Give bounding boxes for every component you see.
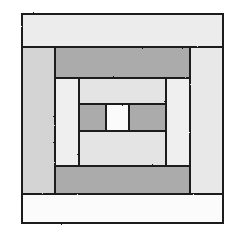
third-top-strip (79, 78, 166, 104)
second-top-strip (55, 47, 190, 78)
quilt-block-canvas (0, 0, 236, 242)
center-left-block (79, 104, 106, 131)
center-right-block (129, 104, 166, 131)
outer-left-strip (22, 47, 55, 194)
second-left-strip (55, 78, 79, 166)
outer-bottom-strip (22, 194, 223, 223)
center-square (106, 104, 129, 131)
second-bottom-strip (55, 166, 190, 194)
quilt-pieces (22, 14, 223, 223)
third-bottom-strip (79, 131, 166, 166)
outer-right-strip (190, 47, 223, 194)
quilt-block-svg (0, 0, 236, 242)
outer-top-strip (22, 14, 223, 47)
second-right-strip (166, 78, 190, 166)
